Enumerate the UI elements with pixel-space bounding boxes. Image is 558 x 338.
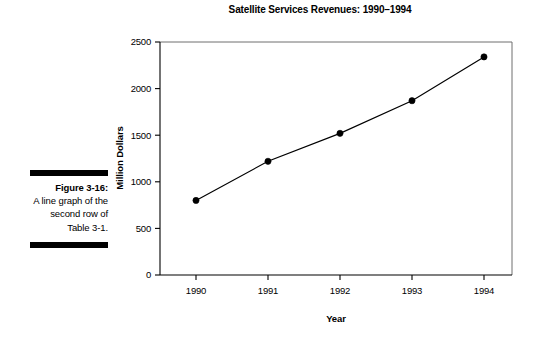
y-axis-ticks: 05001000150020002500 (131, 36, 160, 280)
data-point-1993 (409, 98, 415, 104)
y-tick-label: 1500 (131, 130, 151, 141)
x-tick-label: 1993 (402, 285, 422, 296)
x-tick-label: 1994 (474, 285, 494, 296)
plot-axes (160, 42, 512, 275)
data-point-1992 (337, 130, 343, 136)
series-markers (193, 54, 487, 204)
chart-container: Satellite Services Revenues: 1990–1994 0… (0, 0, 558, 338)
x-tick-label: 1991 (258, 285, 278, 296)
y-tick-label: 0 (146, 269, 151, 280)
x-tick-label: 1992 (330, 285, 350, 296)
y-axis-title: Million Dollars (114, 126, 125, 189)
series-line-path (196, 57, 484, 201)
x-axis-ticks: 19901991199219931994 (186, 275, 494, 296)
x-tick-label: 1990 (186, 285, 206, 296)
data-point-1994 (481, 54, 487, 60)
y-tick-label: 2500 (131, 36, 151, 47)
y-tick-label: 2000 (131, 83, 151, 94)
y-tick-label: 500 (136, 223, 151, 234)
line-chart-plot: 05001000150020002500 1990199119921993199… (0, 0, 558, 338)
data-series (193, 54, 487, 204)
data-point-1991 (265, 158, 271, 164)
figure-page: Figure 3-16: A line graph of the second … (0, 0, 558, 338)
plot-frame (160, 42, 512, 275)
x-axis-title: Year (326, 313, 346, 324)
data-point-1990 (193, 197, 199, 203)
y-tick-label: 1000 (131, 176, 151, 187)
